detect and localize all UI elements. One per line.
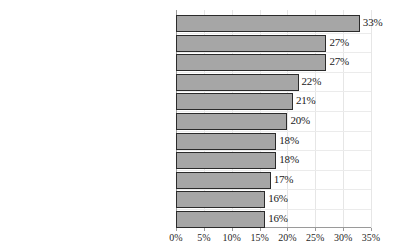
x-tick-mark (287, 228, 288, 231)
bar-value-label: 27% (329, 53, 349, 70)
x-tick-mark (260, 228, 261, 231)
bar (176, 113, 287, 130)
bar-row: 18%Feel the distance from God (176, 150, 371, 170)
bar-row: 20%A good community (176, 111, 371, 131)
bar (176, 133, 276, 150)
bar (176, 93, 293, 110)
bar (176, 191, 265, 208)
bar-row: 27%Move and want to make new friends (176, 33, 371, 53)
bar-row: 21%Friend invites me (176, 91, 371, 111)
bar-chart: 33%New friends27%Move and want to make n… (0, 0, 394, 251)
bar-value-label: 20% (290, 112, 310, 129)
bar-row: 33%New friends (176, 13, 371, 33)
plot-area: 33%New friends27%Move and want to make n… (176, 10, 371, 228)
bar-row: 17%Begin to miss church (176, 170, 371, 190)
x-tick-mark (204, 228, 205, 231)
bar-row: 16%Supernatural phenomena (176, 189, 371, 209)
bar-value-label: 22% (302, 73, 322, 90)
bar-value-label: 16% (268, 190, 288, 207)
x-tick-mark (232, 228, 233, 231)
bar-value-label: 18% (279, 151, 299, 168)
x-tick-mark (176, 228, 177, 231)
bar-row: 18%Spouse wants to go (176, 131, 371, 151)
gridline-vertical (371, 10, 372, 228)
bar-value-label: 21% (296, 92, 316, 109)
x-tick-mark (315, 228, 316, 231)
x-axis-tick-label: 35% (351, 232, 391, 244)
bar-value-label: 18% (279, 132, 299, 149)
bar-value-label: 27% (329, 34, 349, 51)
bar-row: 22%Child wants to go (176, 72, 371, 92)
bar-value-label: 33% (363, 14, 383, 31)
bar-row: 16%Don't have better options on Sunday m… (176, 209, 371, 229)
bar (176, 211, 265, 228)
x-tick-mark (371, 228, 372, 231)
bar (176, 172, 271, 189)
bar (176, 152, 276, 169)
bar (176, 54, 326, 71)
bar-value-label: 16% (268, 210, 288, 227)
bar-value-label: 17% (274, 171, 294, 188)
bar (176, 35, 326, 52)
bar (176, 74, 299, 91)
bar (176, 15, 360, 32)
x-tick-mark (343, 228, 344, 231)
bar-row: 27%Lonely and want to make new friends (176, 52, 371, 72)
